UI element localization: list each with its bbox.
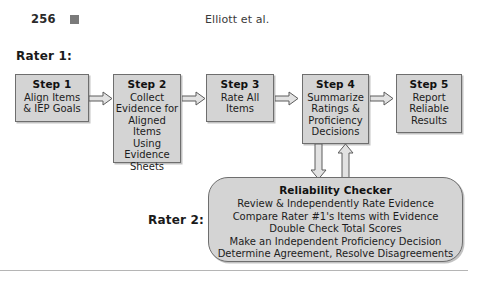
arrow-right-icon-step2-step3 — [182, 91, 206, 106]
arrow-right-icon-step3-step4 — [275, 91, 299, 106]
step-box-2: Step 2 Collect Evidence for Aligned Item… — [113, 74, 181, 163]
reliability-checker-line-2: Compare Rater #1's Items with Evidence — [209, 211, 462, 224]
running-head: Elliott et al. — [205, 13, 269, 26]
page-bottom-rule — [0, 270, 468, 271]
arrow-right-icon-step4-step5 — [370, 91, 394, 106]
step-2-title: Step 2 — [114, 79, 180, 91]
page-number: 256 — [31, 12, 56, 26]
step-box-5: Step 5 Report Reliable Results — [396, 74, 462, 133]
reliability-checker-box: Reliability Checker Review & Independent… — [208, 177, 463, 262]
filled-square-icon — [70, 15, 79, 24]
step-3-body: Rate All Items — [207, 92, 273, 115]
rater-1-label: Rater 1: — [16, 49, 72, 63]
reliability-checker-line-4: Make an Independent Proficiency Decision — [209, 236, 462, 249]
arrow-down-icon-step4-reliability — [311, 144, 327, 180]
step-4-title: Step 4 — [303, 79, 368, 91]
arrow-right-icon-step1-step2 — [89, 91, 113, 106]
step-5-body: Report Reliable Results — [397, 92, 461, 127]
step-5-title: Step 5 — [397, 79, 461, 91]
reliability-checker-title: Reliability Checker — [209, 184, 462, 196]
step-2-body: Collect Evidence for Aligned Items Using… — [114, 92, 180, 173]
reliability-checker-line-5: Determine Agreement, Resolve Disagreemen… — [209, 248, 462, 261]
step-box-1: Step 1 Align Items & IEP Goals — [15, 74, 89, 122]
step-1-body: Align Items & IEP Goals — [16, 92, 88, 115]
step-box-4: Step 4 Summarize Ratings & Proficiency D… — [302, 74, 369, 144]
reliability-checker-line-1: Review & Independently Rate Evidence — [209, 198, 462, 211]
step-4-body: Summarize Ratings & Proficiency Decision… — [303, 92, 368, 138]
reliability-checker-line-3: Double Check Total Scores — [209, 223, 462, 236]
step-1-title: Step 1 — [16, 79, 88, 91]
rater-2-label: Rater 2: — [148, 213, 204, 227]
step-3-title: Step 3 — [207, 79, 273, 91]
step-box-3: Step 3 Rate All Items — [206, 74, 274, 122]
arrow-up-icon-reliability-step4 — [338, 144, 354, 180]
